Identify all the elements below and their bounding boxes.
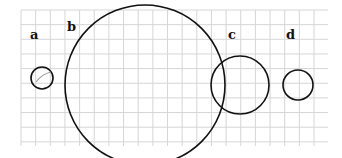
circle-outline bbox=[211, 56, 269, 114]
circle-label: c bbox=[228, 27, 236, 42]
circle-outline bbox=[31, 67, 53, 89]
circle-label: d bbox=[286, 27, 295, 42]
circle-label: b bbox=[67, 19, 76, 34]
circle-d: d bbox=[283, 27, 313, 100]
circle-outline bbox=[65, 5, 225, 158]
circle-c: c bbox=[211, 27, 269, 114]
circle-b: b bbox=[65, 5, 225, 158]
circle-a: a bbox=[30, 27, 53, 89]
circle-label: a bbox=[30, 27, 39, 42]
circles-diagram: abcd bbox=[0, 0, 342, 158]
radius-mark bbox=[36, 72, 51, 82]
circle-outline bbox=[283, 70, 313, 100]
